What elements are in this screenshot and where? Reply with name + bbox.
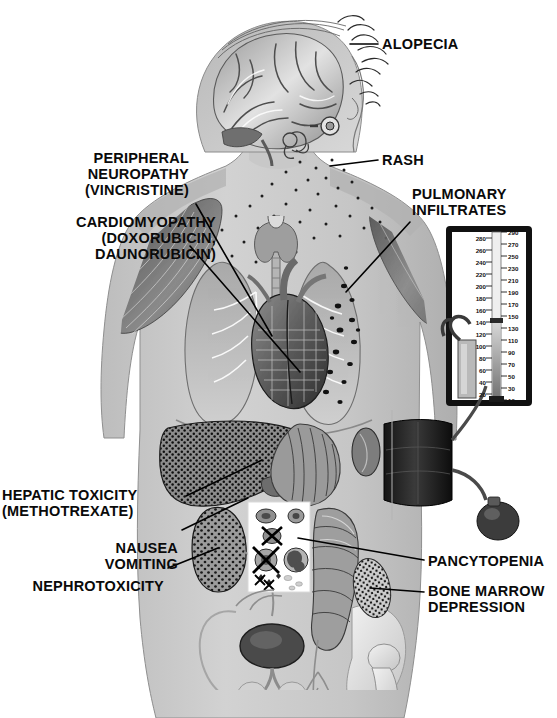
manometer-tick-right-110: 110 — [508, 337, 526, 344]
manometer-tick-left-140: 140 — [468, 319, 486, 326]
manometer-tick-right-290: 290 — [508, 229, 526, 236]
manometer-tick-right-10: 10 — [508, 397, 526, 404]
manometer-tick-left-40: 40 — [468, 379, 486, 386]
spleen-icon — [352, 428, 380, 476]
label-cardiomyopathy: CARDIOMYOPATHY (DOXORUBICIN, DAUNORUBICI… — [4, 214, 216, 263]
manometer-tick-left-280: 280 — [468, 235, 486, 242]
manometer-tick-right-250: 250 — [508, 253, 526, 260]
manometer-tick-right-50: 50 — [508, 373, 526, 380]
manometer-tick-right-70: 70 — [508, 361, 526, 368]
manometer-tick-right-170: 170 — [508, 301, 526, 308]
label-hepatic-toxicity: HEPATIC TOXICITY (METHOTREXATE) — [2, 487, 188, 519]
manometer-tick-left-20: 20 — [468, 391, 486, 398]
manometer-tick-left-120: 120 — [468, 331, 486, 338]
manometer-tick-left-220: 220 — [468, 271, 486, 278]
manometer-tick-right-130: 130 — [508, 325, 526, 332]
manometer-tick-left-60: 60 — [468, 367, 486, 374]
manometer-tick-right-210: 210 — [508, 277, 526, 284]
manometer-tick-left-100: 100 — [468, 343, 486, 350]
manometer-tick-left-180: 180 — [468, 295, 486, 302]
blood-cell-inset — [248, 502, 310, 592]
manometer-tick-left-200: 200 — [468, 283, 486, 290]
manometer-tick-left-80: 80 — [468, 355, 486, 362]
manometer-tick-left-240: 240 — [468, 259, 486, 266]
label-nausea-vomiting: NAUSEA VOMITING — [2, 540, 178, 572]
label-nephrotoxicity: NEPHROTOXICITY — [2, 578, 164, 594]
label-peripheral-neuropathy: PERIPHERAL NEUROPATHY (VINCRISTINE) — [9, 150, 189, 199]
label-pulmonary-infiltrates: PULMONARY INFILTRATES — [412, 186, 507, 218]
manometer-tick-right-230: 230 — [508, 265, 526, 272]
manometer-tick-right-190: 190 — [508, 289, 526, 296]
label-rash: RASH — [382, 152, 424, 168]
manometer-tick-left-160: 160 — [468, 307, 486, 314]
manometer-tick-right-150: 150 — [508, 313, 526, 320]
manometer-tick-right-270: 270 — [508, 241, 526, 248]
label-alopecia: ALOPECIA — [382, 36, 459, 52]
manometer-tick-right-90: 90 — [508, 349, 526, 356]
label-bone-marrow-depression: BONE MARROW DEPRESSION — [428, 583, 545, 615]
manometer-tick-right-30: 30 — [508, 385, 526, 392]
manometer-tick-left-260: 260 — [468, 247, 486, 254]
illustration-canvas: Antineoplastic Agents — [0, 0, 557, 718]
lung-right-icon — [185, 262, 258, 425]
label-pancytopenia: PANCYTOPENIA — [428, 553, 544, 569]
